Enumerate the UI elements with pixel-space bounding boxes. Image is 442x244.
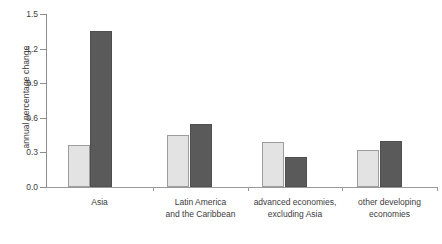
x-axis-category-label: advanced economies,excluding Asia <box>248 197 342 220</box>
y-axis-tick-label: 0.6 <box>4 113 38 123</box>
x-axis-category-label: other developingeconomies <box>342 197 437 220</box>
y-axis-tick-label: 1.2 <box>4 44 38 54</box>
y-axis-tick-mark <box>40 49 46 50</box>
category-label-line: excluding Asia <box>248 209 342 221</box>
bar <box>380 141 402 187</box>
category-label-line: other developing <box>342 197 437 209</box>
x-axis-segment <box>248 187 342 188</box>
x-axis-segment <box>342 187 437 188</box>
x-axis-segment <box>46 187 153 188</box>
x-axis-end-tick <box>437 187 438 191</box>
y-axis-tick-mark <box>40 152 46 153</box>
bar <box>90 31 112 187</box>
bar <box>285 157 307 187</box>
y-axis-line <box>46 14 47 188</box>
y-axis-tick-label: 0.3 <box>4 147 38 157</box>
category-label-line: economies <box>342 209 437 221</box>
bar <box>262 142 284 187</box>
x-axis-group-divider <box>248 187 249 191</box>
category-label-line: Asia <box>46 197 153 209</box>
bar-chart: annual percentage change 0.00.30.60.91.2… <box>0 0 442 244</box>
y-axis-tick-label: 0.0 <box>4 182 38 192</box>
plot-area: 0.00.30.60.91.21.5 AsiaLatin Americaand … <box>0 0 442 244</box>
bar <box>68 145 90 187</box>
bar <box>190 124 212 187</box>
category-label-line: and the Caribbean <box>153 209 248 221</box>
y-axis-tick-mark <box>40 83 46 84</box>
x-axis-category-label: Asia <box>46 197 153 209</box>
category-label-line: advanced economies, <box>248 197 342 209</box>
x-axis-segment <box>153 187 248 188</box>
x-axis-category-label: Latin Americaand the Caribbean <box>153 197 248 220</box>
y-axis-tick-mark <box>40 118 46 119</box>
bar <box>357 150 379 187</box>
x-axis-group-divider <box>153 187 154 191</box>
bar <box>167 135 189 187</box>
y-axis-tick-mark <box>40 14 46 15</box>
x-axis-group-divider <box>342 187 343 191</box>
y-axis-tick-label: 0.9 <box>4 78 38 88</box>
y-axis-tick-label: 1.5 <box>4 9 38 19</box>
category-label-line: Latin America <box>153 197 248 209</box>
